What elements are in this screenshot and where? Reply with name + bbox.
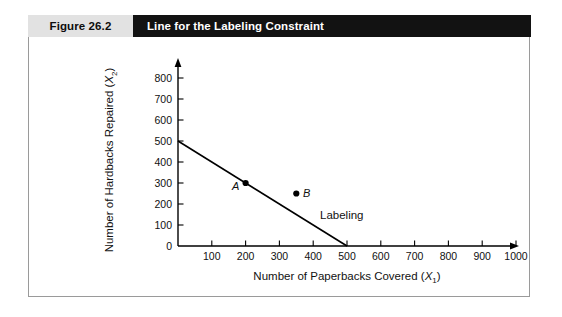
line-annotation-labeling: Labeling [320,209,363,221]
y-axis-title-paren: ) [103,68,115,72]
x-tick-label-300: 300 [271,250,289,262]
y-tick-label-0: 0 [150,240,172,252]
y-tick-label-400: 400 [146,156,172,168]
y-tick-label-100: 100 [146,219,172,231]
x-tick-label-500: 500 [338,250,356,262]
x-tick-label-1000: 1000 [504,250,527,262]
x-tick-label-200: 200 [237,250,255,262]
y-tick-label-500: 500 [146,135,172,147]
x-axis-title-variable: X [425,270,433,282]
x-axis-title: Number of Paperbacks Covered (X1) [253,270,440,285]
y-axis-title-text: Number of Hardbacks Repaired ( [103,84,115,253]
figure-title-panel: Line for the Labeling Constraint [133,15,531,37]
figure-number-panel: Figure 26.2 [28,15,133,37]
figure-number-label: Figure 26.2 [50,20,112,32]
y-tick-label-600: 600 [146,114,172,126]
x-tick-label-400: 400 [304,250,322,262]
x-tick-label-900: 900 [473,250,491,262]
figure-title-label: Line for the Labeling Constraint [147,20,324,32]
y-tick-label-200: 200 [146,198,172,210]
y-tick-label-300: 300 [146,177,172,189]
y-axis-title-subscript: 2 [110,71,119,75]
x-axis-title-text: Number of Paperbacks Covered ( [253,270,424,282]
data-point-a-label: A [232,180,239,192]
x-tick-label-100: 100 [203,250,221,262]
x-tick-label-700: 700 [406,250,424,262]
x-axis-title-paren: ) [437,270,441,282]
data-point-b-label: B [303,187,310,199]
y-tick-label-700: 700 [146,93,172,105]
y-axis-title-variable: X [103,76,115,84]
figure-header: Figure 26.2 Line for the Labeling Constr… [28,15,531,37]
x-tick-label-800: 800 [440,250,458,262]
x-tick-label-600: 600 [372,250,390,262]
y-axis-title: Number of Hardbacks Repaired (X2) [103,68,118,253]
y-tick-label-800: 800 [146,72,172,84]
